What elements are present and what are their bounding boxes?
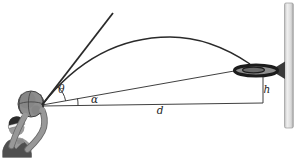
trajectory-arc (42, 37, 250, 105)
backboard (285, 3, 294, 128)
sight-line (42, 71, 237, 106)
basket-assembly (235, 3, 294, 128)
player-left-hand (22, 113, 28, 119)
alpha-angle-arc (78, 99, 79, 106)
labels: θ α d h (58, 83, 270, 116)
free-throw-diagram: θ α d h (0, 0, 294, 159)
diagram-canvas: θ α d h (0, 0, 294, 159)
height-label: h (264, 83, 271, 95)
baseline-distance-line (42, 103, 263, 106)
player-right-hand (39, 107, 45, 113)
player-figure (3, 91, 46, 158)
geometry-lines (42, 13, 263, 106)
alpha-label: α (91, 93, 98, 105)
rim-inner (243, 67, 265, 73)
theta-label: θ (58, 83, 65, 95)
distance-label: d (157, 104, 164, 116)
